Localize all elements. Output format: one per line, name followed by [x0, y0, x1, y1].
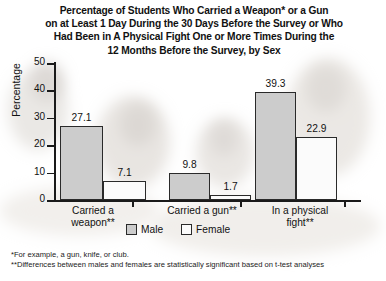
y-tick-20 — [47, 145, 54, 147]
x-tick-separator-1 — [132, 200, 134, 207]
plot-area: 27.1 7.1 9.8 1.7 39.3 22.9 — [55, 63, 360, 200]
y-tick-label-40: 40 — [19, 83, 45, 94]
chart-figure: Percentage of Students Who Carried a Wea… — [0, 0, 386, 281]
bar-male-carried-a-weapon[interactable] — [60, 126, 103, 200]
value-label-female-carried-a-weapon: 7.1 — [103, 167, 146, 178]
x-category-label-carried-a-weapon: Carried a weapon** — [55, 205, 131, 230]
y-tick-label-0: 0 — [19, 193, 45, 204]
legend-item-male[interactable]: Male — [126, 224, 163, 235]
legend-swatch-male-icon — [126, 224, 137, 235]
chart-title-line-2: on at Least 1 Day During the 30 Days Bef… — [22, 17, 366, 30]
legend-swatch-female-icon — [181, 224, 192, 235]
bar-male-in-a-physical-fight[interactable] — [255, 92, 296, 200]
x-category-label-in-a-physical-fight: In a physical fight** — [254, 205, 346, 230]
y-tick-0 — [47, 200, 54, 202]
y-tick-label-50: 50 — [19, 56, 45, 67]
value-label-female-in-a-physical-fight: 22.9 — [296, 123, 337, 134]
chart-title-line-4: 12 Months Before the Survey, by Sex — [22, 44, 366, 57]
bar-female-carried-a-gun[interactable] — [210, 195, 251, 200]
y-tick-40 — [47, 90, 54, 92]
bar-female-carried-a-weapon[interactable] — [103, 181, 146, 201]
y-tick-label-30: 30 — [19, 111, 45, 122]
chart-legend: Male Female — [126, 224, 230, 235]
value-label-female-carried-a-gun: 1.7 — [210, 181, 251, 192]
y-tick-30 — [47, 118, 54, 120]
bar-female-in-a-physical-fight[interactable] — [296, 137, 337, 200]
footnote-2: **Differences between males and females … — [11, 260, 381, 270]
y-tick-label-10: 10 — [19, 166, 45, 177]
value-label-male-in-a-physical-fight: 39.3 — [255, 78, 296, 89]
legend-label-male: Male — [141, 224, 163, 235]
footnotes: *For example, a gun, knife, or club. **D… — [11, 250, 381, 269]
value-label-male-carried-a-weapon: 27.1 — [60, 112, 103, 123]
y-tick-50 — [47, 63, 54, 65]
chart-title-line-1: Percentage of Students Who Carried a Wea… — [22, 4, 366, 17]
legend-item-female[interactable]: Female — [181, 224, 230, 235]
legend-label-female: Female — [196, 224, 230, 235]
chart-title: Percentage of Students Who Carried a Wea… — [22, 4, 366, 57]
value-label-male-carried-a-gun: 9.8 — [169, 159, 210, 170]
x-category-label-carried-a-gun: Carried a gun** — [150, 205, 254, 217]
chart-title-line-3: Had Been in A Physical Fight One or More… — [22, 30, 366, 43]
bar-male-carried-a-gun[interactable] — [169, 173, 210, 200]
footnote-1: *For example, a gun, knife, or club. — [11, 250, 381, 260]
y-tick-label-20: 20 — [19, 138, 45, 149]
x-axis-line — [54, 200, 361, 202]
y-tick-10 — [47, 173, 54, 175]
